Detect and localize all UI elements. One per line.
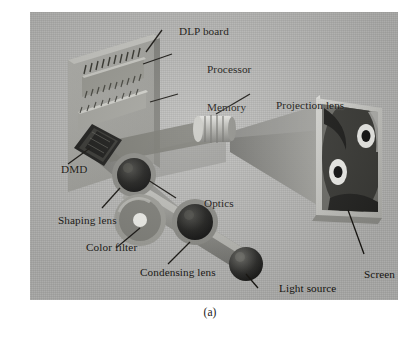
diagram-canvas <box>30 12 398 300</box>
label-color-filter: Color filter <box>86 242 137 254</box>
light-source-bulb <box>229 247 263 281</box>
projection-lens <box>193 115 236 143</box>
label-optics: Optics <box>204 198 234 210</box>
figure-caption: (a) <box>0 306 420 318</box>
label-condensing-lens: Condensing lens <box>140 267 216 279</box>
label-light-source: Light source <box>279 283 336 295</box>
label-shaping-lens: Shaping lens <box>58 215 117 227</box>
label-screen: Screen <box>364 269 395 281</box>
label-dmd: DMD <box>61 164 87 176</box>
screen <box>312 95 382 224</box>
label-memory: Memory <box>207 102 246 114</box>
label-projection-lens: Projection lens <box>276 100 344 112</box>
figure-panel: DLP boardProcessorMemoryProjection lensD… <box>30 12 398 300</box>
light-cone <box>230 104 322 208</box>
color-filter <box>114 194 166 246</box>
projected-image <box>320 100 382 216</box>
label-dlp-board: DLP board <box>179 26 229 38</box>
label-processor: Processor <box>207 64 251 76</box>
